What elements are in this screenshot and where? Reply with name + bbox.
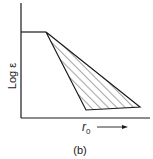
diagram-canvas — [0, 0, 153, 159]
figure-caption: (b) — [68, 144, 92, 156]
x-axis-label: r0 — [82, 120, 90, 136]
y-axis-label: Log ε — [6, 58, 18, 94]
x-axis-label-subscript: 0 — [86, 127, 90, 136]
x-arrow-head-icon — [122, 125, 128, 129]
hatched-triangle — [46, 32, 140, 110]
